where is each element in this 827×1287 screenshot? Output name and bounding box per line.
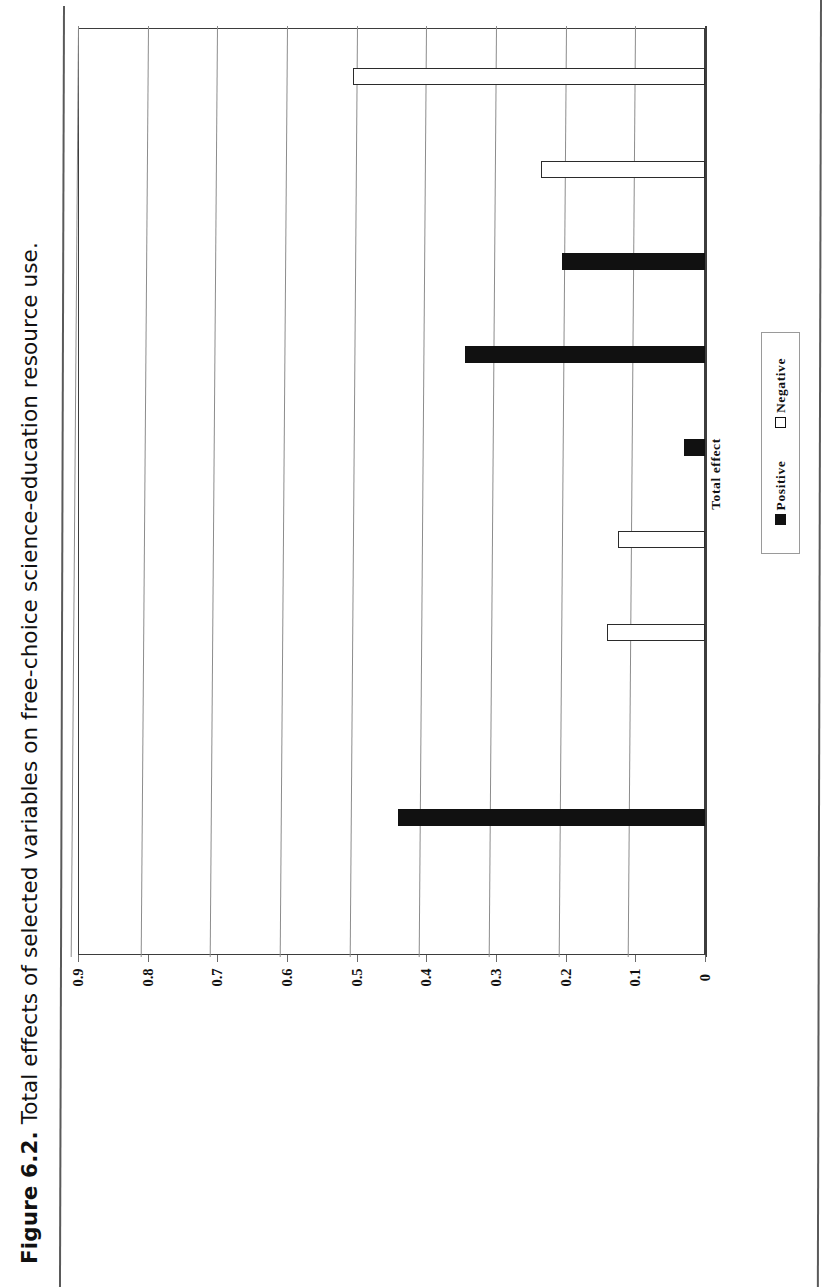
bar-attentive-to-science-policy[interactable] (398, 809, 705, 826)
chart-legend: Negative Positive (761, 332, 800, 554)
tick-label-0.7: 0.7 (209, 958, 226, 998)
figure-caption: Figure 6.2. Total effects of selected va… (17, 24, 42, 1264)
figure-caption-container: Figure 6.2. Total effects of selected va… (0, 0, 58, 1287)
bar-row (78, 253, 705, 270)
tick-label-0.5: 0.5 (348, 958, 365, 998)
page-rule-left (59, 6, 65, 1287)
tick-label-0: 0 (697, 958, 714, 998)
axis-title: Total effect (708, 384, 724, 564)
tick-label-0.1: 0.1 (627, 958, 644, 998)
bar-college-science-courses[interactable] (465, 346, 705, 363)
bar-children-at-home[interactable] (684, 439, 705, 456)
bar-science-related-job[interactable] (618, 531, 705, 548)
tick-label-0.3: 0.3 (488, 958, 505, 998)
tick-label-0.8: 0.8 (139, 958, 156, 998)
bar-series (78, 28, 705, 955)
legend-entry-positive: Positive (773, 388, 789, 598)
bar-row (78, 439, 705, 456)
page-rule-right (817, 0, 822, 1287)
legend-swatch-positive-icon (775, 514, 786, 525)
tick-label-0.2: 0.2 (557, 958, 574, 998)
bar-row (78, 902, 705, 919)
chart-plot-area (78, 28, 705, 955)
figure-number: Figure 6.2. (17, 1131, 42, 1264)
tick-label-0.9: 0.9 (70, 958, 87, 998)
bar-row (78, 346, 705, 363)
gridline-0 (705, 26, 707, 957)
bar-educational-attainment[interactable] (562, 253, 705, 270)
legend-label-positive: Positive (773, 461, 788, 511)
bar-row (78, 809, 705, 826)
tick-label-0.4: 0.4 (418, 958, 435, 998)
bar-row (78, 161, 705, 178)
figure-caption-text: Total effects of selected variables on f… (17, 242, 42, 1124)
bar-row (78, 531, 705, 548)
bar-age[interactable] (353, 68, 705, 85)
bar-gender-f[interactable] (541, 161, 705, 178)
tick-label-0.6: 0.6 (279, 958, 296, 998)
bar-row (78, 624, 705, 641)
bar-row (78, 717, 705, 734)
bar-row (78, 68, 705, 85)
bar-attentive-to-space-exploration[interactable] (607, 624, 705, 641)
